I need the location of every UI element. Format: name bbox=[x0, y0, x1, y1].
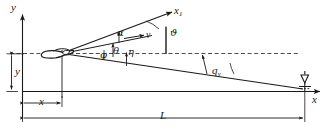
aircraft-silhouette-icon bbox=[41, 49, 73, 59]
velocity-vector-label: v bbox=[146, 30, 150, 40]
line-of-sight bbox=[62, 54, 303, 90]
x-axis-label: x bbox=[312, 94, 317, 105]
angle-varphi-label: φ bbox=[100, 50, 107, 60]
body-axis-x1-label: x1 bbox=[174, 5, 182, 16]
angle-vartheta-label: ϑ bbox=[170, 28, 177, 38]
body-axis-x1-subscript: 1 bbox=[179, 10, 182, 17]
angle-alpha-label: α bbox=[117, 28, 124, 38]
station-angle-label: qv bbox=[212, 65, 221, 76]
angle-eta-label: η bbox=[128, 47, 134, 57]
angle-arcs bbox=[146, 21, 234, 74]
dimension-L-label: L bbox=[160, 110, 166, 121]
dimension-y-label: y bbox=[15, 66, 20, 77]
velocity-direction-line bbox=[63, 36, 153, 54]
figure-root: y x x1 α v ϑ φ θ η qv y x L bbox=[0, 0, 329, 129]
dimension-x-label: x bbox=[39, 96, 44, 107]
y-axis-label: y bbox=[11, 2, 16, 13]
station-angle-base: q bbox=[212, 64, 218, 76]
ground-station-antenna-icon bbox=[299, 71, 311, 92]
station-angle-subscript: v bbox=[218, 70, 221, 77]
angle-theta-label: θ bbox=[113, 46, 119, 56]
station-angle-indicator bbox=[203, 55, 208, 74]
